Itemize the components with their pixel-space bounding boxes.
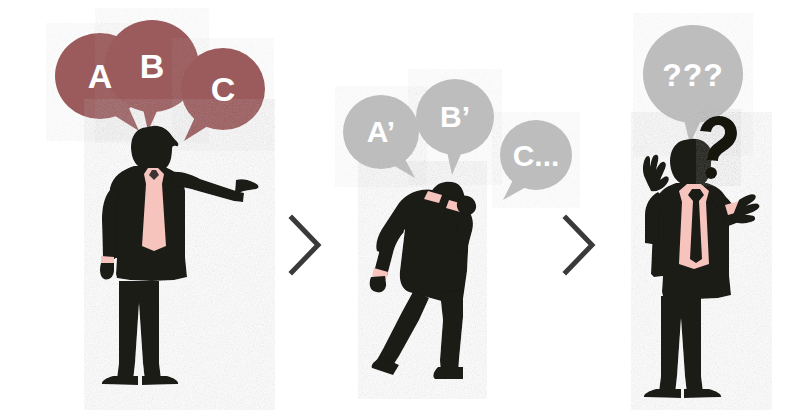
illustration-canvas: A B C A’ B’ C... ??? bbox=[0, 0, 808, 410]
panel-messenger[interactable] bbox=[340, 80, 580, 395]
panel-confused-listener[interactable] bbox=[615, 20, 795, 400]
panel-speaker[interactable] bbox=[40, 20, 290, 395]
